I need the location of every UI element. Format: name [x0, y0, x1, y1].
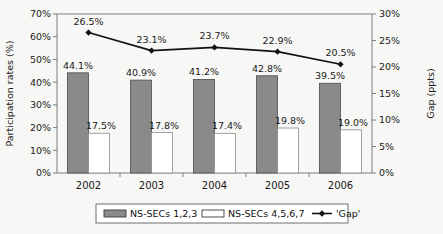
bar-ns-secs-123 — [320, 83, 341, 173]
bar-value-label: 42.8% — [252, 63, 282, 74]
x-axis-category-label: 2003 — [139, 180, 164, 191]
left-axis-tick-label: 30% — [30, 99, 51, 110]
bar-value-label: 44.1% — [63, 60, 93, 71]
bar-value-label: 19.0% — [338, 117, 368, 128]
left-axis-tick-label: 10% — [30, 145, 51, 156]
gap-value-label: 26.5% — [73, 16, 103, 27]
right-axis-tick-label: 25% — [379, 35, 400, 46]
bar-value-label: 39.5% — [315, 70, 345, 81]
left-axis-tick-label: 60% — [30, 31, 51, 42]
gap-value-label: 23.1% — [136, 34, 166, 45]
right-axis-tick-label: 20% — [379, 61, 400, 72]
right-axis-tick-label: 0% — [379, 167, 394, 178]
bar-ns-secs-4567 — [215, 133, 236, 173]
bar-value-label: 17.5% — [86, 120, 116, 131]
right-axis-tick-label: 5% — [379, 141, 394, 152]
bar-value-label: 40.9% — [126, 67, 156, 78]
left-axis-tick-label: 50% — [30, 54, 51, 65]
legend-swatch-ns-secs-123 — [104, 210, 126, 217]
bar-value-label: 17.4% — [212, 120, 242, 131]
left-axis-tick-label: 70% — [30, 8, 51, 19]
bar-ns-secs-4567 — [152, 133, 173, 173]
gap-value-label: 23.7% — [199, 30, 229, 41]
right-axis-tick-label: 30% — [379, 8, 400, 19]
left-axis-tick-label: 20% — [30, 122, 51, 133]
gap-value-label: 22.9% — [262, 35, 292, 46]
legend-label-ns-secs-4567: NS-SECs 4,5,6,7 — [228, 208, 304, 219]
bar-ns-secs-4567 — [341, 130, 362, 173]
legend-label-gap: 'Gap' — [336, 208, 360, 219]
chart-container: 0%10%20%30%40%50%60%70%0%5%10%15%20%25%3… — [0, 0, 443, 234]
left-axis-title: Participation rates (%) — [4, 40, 15, 146]
right-axis-tick-label: 10% — [379, 114, 400, 125]
right-axis-title: Gap (ppts) — [425, 68, 436, 118]
left-axis-tick-label: 40% — [30, 77, 51, 88]
bar-ns-secs-4567 — [278, 128, 299, 173]
left-axis-tick-label: 0% — [36, 167, 51, 178]
bar-value-label: 19.8% — [275, 115, 305, 126]
legend-swatch-ns-secs-4567 — [202, 210, 224, 217]
x-axis-category-label: 2002 — [76, 180, 101, 191]
x-axis-category-label: 2004 — [202, 180, 227, 191]
gap-value-label: 20.5% — [325, 47, 355, 58]
bar-value-label: 17.8% — [149, 120, 179, 131]
participation-gap-chart: 0%10%20%30%40%50%60%70%0%5%10%15%20%25%3… — [0, 0, 443, 234]
right-axis-tick-label: 15% — [379, 88, 400, 99]
bar-ns-secs-4567 — [89, 133, 110, 173]
bar-value-label: 41.2% — [189, 66, 219, 77]
x-axis-category-label: 2005 — [265, 180, 290, 191]
x-axis-category-label: 2006 — [328, 180, 353, 191]
legend-label-ns-secs-123: NS-SECs 1,2,3 — [130, 208, 197, 219]
